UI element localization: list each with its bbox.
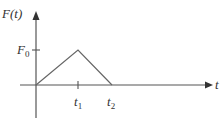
x-axis-label: t	[215, 77, 219, 92]
y-axis-arrow-icon	[33, 11, 40, 20]
pulse-curve	[36, 50, 112, 85]
x-axis-arrow-icon	[205, 82, 213, 89]
y-axis-label: F(t)	[1, 6, 22, 21]
t1-label: t1	[74, 94, 82, 111]
f0-label: F0	[16, 42, 30, 59]
force-pulse-diagram: F(t) F0 t1 t2 t	[0, 0, 222, 121]
t2-label: t2	[107, 94, 115, 111]
